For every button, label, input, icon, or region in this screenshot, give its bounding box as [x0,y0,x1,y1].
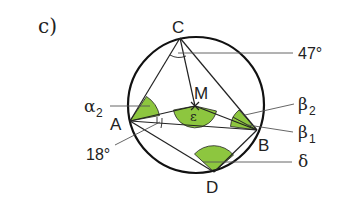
part-label: c) [38,14,57,38]
edge-CM [180,38,195,106]
angle-label-epsilon: ε [190,109,197,124]
geometry-diagram: c) C A B D M 47° 18° α 2 β 2 β 1 δ ε [0,0,339,205]
angle-label-delta: δ [298,151,308,171]
angle-label-alpha2: α [84,96,96,116]
angle-label-18: 18° [86,146,110,163]
point-label-D: D [206,178,218,197]
point-label-M: M [194,84,208,103]
point-label-B: B [258,136,269,155]
angle-label-beta1: β [298,122,308,142]
svg-text:2: 2 [309,104,316,118]
point-label-C: C [172,18,184,37]
angle-label-beta2: β [298,94,308,114]
svg-text:2: 2 [96,106,103,120]
angle-label-47: 47° [298,45,322,62]
svg-text:1: 1 [309,132,316,146]
leader-beta2 [245,104,294,115]
point-label-A: A [110,115,122,134]
